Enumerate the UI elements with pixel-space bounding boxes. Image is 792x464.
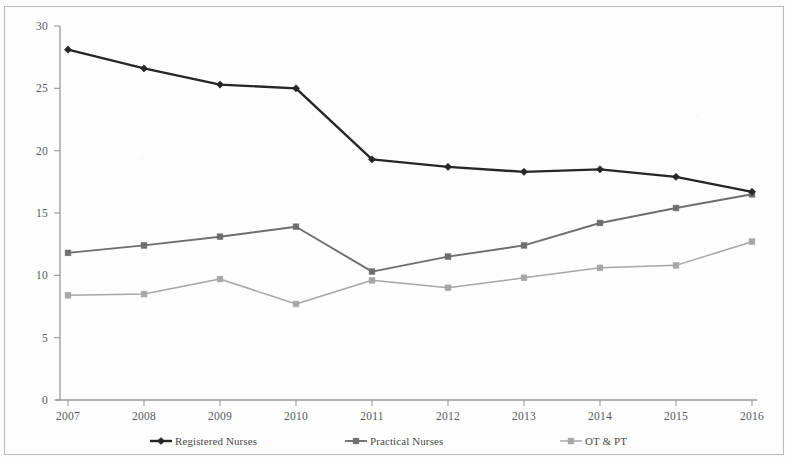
data-point-2007	[64, 46, 71, 53]
data-point-2011	[369, 277, 375, 283]
data-point-2010	[293, 224, 299, 230]
data-point-2009	[216, 81, 223, 88]
y-tick-label-25: 25	[36, 82, 48, 94]
x-tick-label-2013: 2013	[512, 410, 536, 422]
x-tick-label-2009: 2009	[208, 410, 232, 422]
data-point-2014	[597, 220, 603, 226]
y-tick-label-0: 0	[42, 394, 48, 406]
legend-label: Practical Nurses	[370, 435, 443, 447]
y-axis-ticks	[54, 26, 60, 400]
data-point-2012	[445, 285, 451, 291]
x-tick-label-2010: 2010	[284, 410, 308, 422]
data-point-2014	[596, 166, 603, 173]
legend-marker	[157, 437, 164, 444]
y-tick-label-20: 20	[36, 145, 48, 157]
data-point-2012	[445, 254, 451, 260]
x-tick-label-2011: 2011	[360, 410, 383, 422]
chart-figure: 051015202530 200720082009201020112012201…	[0, 0, 792, 464]
x-tick-label-2012: 2012	[436, 410, 460, 422]
x-axis-ticks	[68, 400, 752, 406]
series-ot-pt	[65, 239, 755, 307]
series-layer	[64, 46, 755, 307]
data-point-2008	[141, 243, 147, 249]
legend-marker	[568, 438, 574, 444]
series-registered-nurses	[64, 46, 755, 195]
data-point-2008	[140, 65, 147, 72]
y-tick-label-5: 5	[42, 332, 48, 344]
x-tick-label-2014: 2014	[588, 410, 612, 422]
legend-label: Registered Nurses	[175, 435, 257, 447]
data-point-2011	[369, 269, 375, 275]
data-point-2016	[749, 239, 755, 245]
data-point-2008	[141, 291, 147, 297]
legend-label: OT & PT	[585, 435, 627, 447]
series-practical-nurses	[65, 191, 755, 274]
legend-marker	[353, 438, 359, 444]
x-tick-label-2015: 2015	[664, 410, 688, 422]
legend-item-registered-nurses[interactable]: Registered Nurses	[150, 435, 257, 447]
data-point-2015	[672, 173, 679, 180]
data-point-2014	[597, 265, 603, 271]
data-point-2012	[444, 163, 451, 170]
data-point-2015	[673, 262, 679, 268]
data-point-2013	[521, 275, 527, 281]
data-point-2007	[65, 292, 71, 298]
data-point-2009	[217, 276, 223, 282]
series-line	[68, 242, 752, 304]
data-point-2009	[217, 234, 223, 240]
data-point-2010	[293, 301, 299, 307]
data-point-2007	[65, 250, 71, 256]
series-line	[68, 50, 752, 192]
y-tick-label-15: 15	[36, 207, 48, 219]
x-tick-label-2016: 2016	[740, 410, 764, 422]
y-tick-label-10: 10	[36, 269, 48, 281]
legend-item-ot-pt[interactable]: OT & PT	[560, 435, 627, 447]
data-point-2013	[521, 243, 527, 249]
data-point-2013	[520, 168, 527, 175]
y-tick-label-30: 30	[36, 20, 48, 32]
data-point-2015	[673, 205, 679, 211]
y-axis-tick-labels: 051015202530	[36, 20, 48, 406]
line-chart: 051015202530 200720082009201020112012201…	[0, 0, 792, 464]
legend-item-practical-nurses[interactable]: Practical Nurses	[345, 435, 443, 447]
x-tick-label-2007: 2007	[56, 410, 80, 422]
x-axis-tick-labels: 2007200820092010201120122013201420152016	[56, 410, 764, 422]
x-tick-label-2008: 2008	[132, 410, 156, 422]
series-line	[68, 194, 752, 271]
chart-legend: Registered NursesPractical NursesOT & PT	[150, 435, 627, 447]
